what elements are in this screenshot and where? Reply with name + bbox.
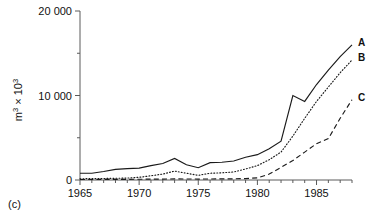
x-tick-label: 1975 bbox=[186, 187, 210, 199]
series-label-a: A bbox=[358, 37, 365, 48]
y-tick-label: 10 000 bbox=[38, 90, 72, 102]
y-tick-label: 0 bbox=[66, 174, 72, 186]
series-label-b: B bbox=[358, 52, 365, 63]
y-tick-label: 20 000 bbox=[38, 5, 72, 17]
line-chart: 010 00020 000 19651970197519801985 m3 × … bbox=[0, 0, 378, 220]
x-tick-label: 1965 bbox=[68, 187, 92, 199]
x-tick-label: 1980 bbox=[245, 187, 269, 199]
y-axis-group: 010 00020 000 bbox=[38, 5, 80, 186]
y-axis-tick-labels: 010 00020 000 bbox=[38, 5, 72, 186]
figure-container: 010 00020 000 19651970197519801985 m3 × … bbox=[0, 0, 378, 220]
y-axis-title: m3 × 103 bbox=[11, 79, 24, 121]
figure-caption: (c) bbox=[8, 198, 21, 210]
x-axis-tick-labels: 19651970197519801985 bbox=[68, 187, 329, 199]
y-axis-major-ticks bbox=[75, 11, 80, 180]
x-axis-group: 19651970197519801985 bbox=[68, 180, 352, 199]
series-line-b bbox=[80, 60, 352, 179]
series-line-c bbox=[80, 100, 352, 180]
series-label-c: C bbox=[358, 92, 365, 103]
series-lines bbox=[80, 45, 352, 180]
series-end-labels: ABC bbox=[358, 37, 365, 103]
y-axis-title-text: m3 × 103 bbox=[11, 79, 24, 121]
x-tick-label: 1970 bbox=[127, 187, 151, 199]
x-tick-label: 1985 bbox=[304, 187, 328, 199]
